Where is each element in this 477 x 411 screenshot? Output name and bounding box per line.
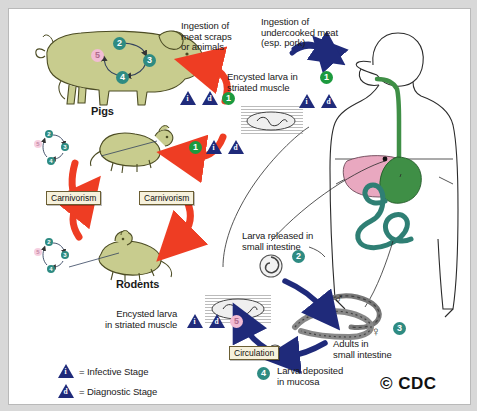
stage-badge-human-ingestion: 1 — [320, 71, 333, 84]
rodent-lower-badge-5: 5 — [34, 248, 42, 256]
arrow-step2-to-3 — [285, 281, 323, 309]
pig-cycle-badge-5: 5 — [91, 49, 104, 62]
rodent-illustration-upper — [90, 126, 172, 173]
legend-infective-triangle-letter: i — [58, 364, 73, 378]
pig-cycle-badge-3: 3 — [143, 54, 156, 67]
label-rodents: Rodents — [116, 279, 159, 290]
label-box-carnivorism-left: Carnivorism — [46, 191, 101, 205]
stage-badge-pig-ingestion: 1 — [222, 92, 235, 105]
label-encysted-larva-bottom: Encysted larva in striated muscle — [105, 309, 177, 330]
muscle-tissue-top — [241, 106, 303, 136]
infective-triangle-encysted-letter: i — [187, 314, 202, 328]
label-pigs: Pigs — [91, 106, 114, 117]
label-ingestion-meat-scraps: Ingestion of meat scraps or animals — [181, 21, 232, 53]
label-larva-released: Larva released in small intestine — [242, 231, 313, 252]
label-adults-small-intestine: Adults in small intestine — [333, 339, 392, 360]
pig-cycle-badge-4: 4 — [116, 71, 129, 84]
diagram-frame: i d i d i d i d i d 1 1 1 2 3 4 5 2 3 4 … — [8, 8, 471, 405]
stage-badge-adults: 3 — [393, 322, 406, 335]
artwork-layer — [9, 9, 470, 404]
label-box-carnivorism-right: Carnivorism — [139, 191, 194, 205]
stage-badge-encysted-human: 5 — [230, 315, 243, 328]
label-box-circulation: Circulation — [229, 346, 279, 360]
rodent-upper-badge-2: 2 — [45, 130, 53, 138]
rodent-upper-badge-5: 5 — [34, 140, 42, 148]
label-encysted-larva-top: Encysted larva in striated muscle — [227, 72, 298, 93]
legend-diagnostic-triangle-letter: d — [58, 384, 73, 398]
arrow-carnivorism-right — [181, 201, 190, 237]
diagnostic-triangle-pig-letter: d — [202, 91, 217, 105]
larva-released-illustration — [260, 255, 282, 277]
legend-diagnostic-text: = Diagnostic Stage — [79, 387, 157, 398]
rodent-lower-badge-2: 2 — [45, 238, 53, 246]
arrow-carnivorism-left — [73, 203, 79, 237]
stage-badge-rodent-ingestion: 1 — [189, 141, 202, 154]
infective-triangle-rodent-letter: i — [206, 140, 221, 154]
infective-triangle-pig-letter: i — [180, 91, 195, 105]
label-larva-deposited: Larva deposited in mucosa — [277, 366, 343, 387]
diagnostic-triangle-encysted-letter: d — [209, 314, 224, 328]
stage-badge-larva-deposited: 4 — [257, 367, 270, 380]
rodent-illustration-lower — [69, 231, 172, 282]
diagnostic-triangle-rodent-letter: d — [228, 140, 243, 154]
rodent-upper-badge-3: 3 — [61, 143, 69, 151]
arrow-step3-to-4 — [289, 343, 325, 356]
female-symbol: ♀ — [371, 327, 381, 338]
cdc-copyright: © CDC — [380, 374, 437, 394]
diagram-page: i d i d i d i d i d 1 1 1 2 3 4 5 2 3 4 … — [0, 0, 477, 411]
pig-cycle-badge-2: 2 — [113, 37, 126, 50]
rodent-lower-badge-3: 3 — [61, 251, 69, 259]
infective-triangle-human-letter: i — [299, 94, 314, 108]
label-ingestion-undercooked: Ingestion of undercooked meat (esp. pork… — [261, 17, 338, 49]
legend-infective-text: = Infective Stage — [79, 367, 148, 378]
male-symbol: ♂ — [334, 294, 344, 305]
rodent-lower-badge-4: 4 — [47, 265, 55, 273]
diagnostic-triangle-human-letter: d — [321, 94, 336, 108]
rodent-upper-badge-4: 4 — [47, 157, 55, 165]
